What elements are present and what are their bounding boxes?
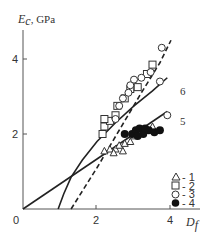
point-series-4 xyxy=(134,132,142,140)
point-series-4 xyxy=(156,126,164,134)
x-tick-2: 2 xyxy=(93,214,99,226)
curve-label-5: 5 xyxy=(180,115,186,127)
y-tick-2: 2 xyxy=(12,128,18,140)
point-series-4 xyxy=(141,124,149,132)
point-series-3 xyxy=(112,116,119,123)
y-tick-4: 4 xyxy=(12,53,18,65)
chart: 4 2 0 2 4 Ec, GPa Df 6 5 - 1 - 2 - 3 - 4 xyxy=(0,0,211,243)
curve-label-6: 6 xyxy=(180,85,186,97)
point-series-2 xyxy=(149,61,156,68)
point-series-3 xyxy=(156,78,163,85)
point-series-3 xyxy=(158,44,165,51)
point-series-3 xyxy=(147,69,154,76)
point-series-3 xyxy=(125,89,132,96)
point-series-3 xyxy=(164,112,171,119)
y-axis-label: Ec, GPa xyxy=(17,12,55,28)
point-series-2 xyxy=(101,116,108,123)
point-series-2 xyxy=(99,131,106,138)
x-tick-0: 0 xyxy=(13,214,19,226)
triangle-icon xyxy=(172,173,180,180)
point-series-2 xyxy=(134,84,141,91)
x-tick-4: 4 xyxy=(167,214,173,226)
point-series-3 xyxy=(138,74,145,81)
curve-6 xyxy=(58,78,167,209)
point-series-4 xyxy=(121,130,129,138)
legend-label-4: - 4 xyxy=(182,197,195,209)
circle-open-icon xyxy=(172,191,179,198)
point-series-3 xyxy=(131,76,138,83)
circle-filled-icon xyxy=(172,199,180,207)
legend: - 1 - 2 - 3 xyxy=(172,171,195,200)
square-icon xyxy=(172,182,179,189)
point-series-3 xyxy=(119,95,126,102)
point-series-3 xyxy=(116,102,123,109)
x-axis-label: Df xyxy=(185,215,200,232)
